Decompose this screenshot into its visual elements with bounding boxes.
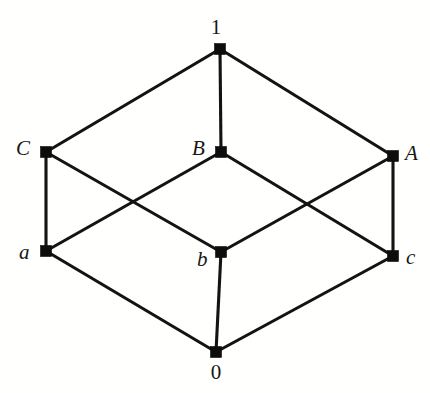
- node-label-a: a: [19, 242, 30, 263]
- lattice-diagram: 1CBAabc0: [0, 0, 430, 393]
- lattice-graph-canvas: [0, 0, 430, 393]
- node-c[interactable]: [388, 251, 399, 262]
- node-label-top: 1: [196, 17, 236, 38]
- node-C[interactable]: [41, 147, 52, 158]
- edge-1-B: [220, 49, 221, 152]
- node-B[interactable]: [216, 147, 227, 158]
- edge-a-0: [46, 251, 216, 352]
- node-label-C: C: [16, 138, 30, 159]
- node-b[interactable]: [216, 247, 227, 258]
- edge-A-b: [221, 156, 393, 252]
- edges-group: [46, 49, 393, 352]
- node-label-B: B: [192, 138, 205, 159]
- node-A[interactable]: [388, 151, 399, 162]
- node-label-bottom: 0: [196, 362, 236, 383]
- node-top[interactable]: [215, 44, 226, 55]
- edge-b-0: [216, 252, 221, 352]
- node-label-A: A: [405, 143, 418, 164]
- node-bottom[interactable]: [211, 347, 222, 358]
- node-label-c: c: [406, 247, 415, 268]
- node-a[interactable]: [41, 246, 52, 257]
- edge-1-A: [220, 49, 393, 156]
- node-label-b: b: [197, 249, 208, 270]
- edge-c-0: [216, 256, 393, 352]
